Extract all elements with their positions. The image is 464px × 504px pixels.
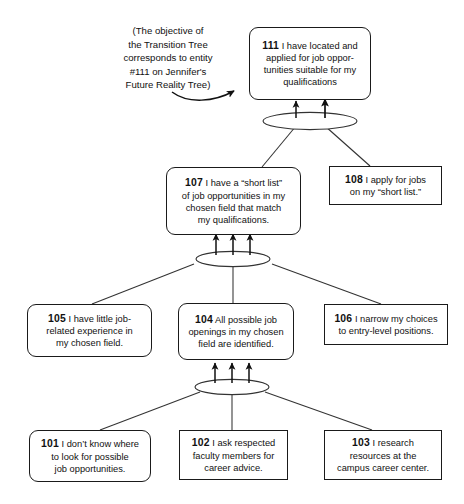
- annotation-curved-arrow: [172, 91, 234, 100]
- node-101[interactable]: 101 I don’t know where to look for possi…: [29, 430, 151, 482]
- node-105-line-2: related experience in: [46, 326, 132, 336]
- node-111[interactable]: 111 I have located and applied for job o…: [249, 27, 371, 100]
- and-connector-bottom-ellipse: [195, 379, 269, 394]
- node-111-text: 111 I have located and applied for job o…: [262, 39, 357, 89]
- node-105[interactable]: 105 I have little job- related experienc…: [27, 304, 152, 357]
- node-105-line-3: my chosen field.: [56, 338, 123, 348]
- edges-to-top-connector: [262, 126, 370, 167]
- transition-tree-diagram: (The objective of the Transition Tree co…: [0, 0, 464, 504]
- node-105-text: 105 I have little job- related experienc…: [46, 312, 132, 350]
- arrows-bottom-connector-to-104: [215, 363, 249, 383]
- node-106-id: 106: [334, 313, 352, 324]
- node-102-line-1: I ask respected: [212, 438, 275, 448]
- arrows-top-connector-to-111: [296, 99, 325, 118]
- node-102-line-3: career advice.: [204, 463, 262, 473]
- node-106[interactable]: 106 I narrow my choices to entry-level p…: [324, 304, 448, 345]
- node-104-id: 104: [195, 314, 213, 325]
- diagram-edges: [0, 0, 464, 504]
- node-108[interactable]: 108 I apply for jobs on my “short list.”: [329, 166, 442, 205]
- node-108-line-1: I apply for jobs: [366, 175, 426, 185]
- annotation-line-5: Future Reality Tree): [126, 79, 211, 90]
- node-111-line-2: applied for job oppor-: [266, 53, 354, 63]
- node-107-line-4: my qualifications.: [198, 215, 269, 225]
- node-111-id: 111: [262, 40, 279, 51]
- node-103-id: 103: [352, 437, 370, 448]
- node-104-line-2: openings in my chosen: [188, 327, 283, 337]
- node-108-line-2: on my “short list.”: [350, 187, 421, 197]
- node-104[interactable]: 104 All possible job openings in my chos…: [178, 303, 294, 360]
- node-102-id: 102: [192, 437, 210, 448]
- node-101-id: 101: [41, 438, 59, 449]
- node-103-text: 103 I research resources at the campus c…: [337, 436, 429, 474]
- node-107-id: 107: [185, 177, 203, 188]
- node-102-line-2: faculty members for: [193, 451, 275, 461]
- and-connector-middle-ellipse: [196, 251, 270, 266]
- edges-to-middle-connector: [92, 264, 381, 304]
- node-108-id: 108: [345, 174, 363, 185]
- node-104-line-1: All possible job: [215, 315, 277, 325]
- node-102[interactable]: 102 I ask respected faculty members for …: [179, 430, 288, 480]
- node-104-text: 104 All possible job openings in my chos…: [188, 313, 283, 351]
- node-101-text: 101 I don’t know where to look for possi…: [41, 437, 139, 475]
- node-103[interactable]: 103 I research resources at the campus c…: [324, 430, 442, 480]
- edges-to-bottom-connector: [100, 392, 372, 430]
- node-103-line-2: resources at the: [350, 451, 417, 461]
- node-106-text: 106 I narrow my choices to entry-level p…: [334, 312, 437, 338]
- node-101-line-3: job opportunities.: [55, 464, 126, 474]
- node-107-line-3: chosen field that match: [186, 203, 282, 213]
- node-107[interactable]: 107 I have a “short list” of job opportu…: [166, 167, 301, 235]
- node-111-line-3: tunities suitable for my: [264, 65, 357, 75]
- node-111-line-1: I have located and: [282, 41, 358, 51]
- node-105-id: 105: [48, 313, 66, 324]
- node-105-line-1: I have little job-: [69, 314, 132, 324]
- annotation-line-3: corresponds to entity: [123, 52, 212, 63]
- and-connector-top-ellipse: [263, 112, 357, 129]
- node-101-line-2: to look for possible: [51, 452, 129, 462]
- node-103-line-3: campus career center.: [337, 463, 429, 473]
- node-106-line-1: I narrow my choices: [355, 314, 438, 324]
- node-106-line-2: to entry-level positions.: [338, 326, 433, 336]
- node-108-text: 108 I apply for jobs on my “short list.”: [345, 173, 426, 199]
- node-102-text: 102 I ask respected faculty members for …: [192, 436, 276, 474]
- annotation-line-4: #111 on Jennifer's: [130, 66, 207, 77]
- node-104-line-3: field are identified.: [198, 339, 273, 349]
- annotation-text: (The objective of the Transition Tree co…: [105, 24, 231, 92]
- node-111-line-4: qualifications: [283, 77, 337, 87]
- arrows-middle-connector-to-107: [216, 234, 250, 255]
- annotation-line-2: the Transition Tree: [128, 39, 207, 50]
- node-107-line-1: I have a “short list”: [206, 178, 282, 188]
- annotation-line-1: (The objective of: [133, 25, 204, 36]
- node-107-line-2: of job opportunities in my: [182, 191, 285, 201]
- node-107-text: 107 I have a “short list” of job opportu…: [182, 176, 285, 226]
- node-103-line-1: I research: [373, 438, 414, 448]
- node-101-line-1: I don’t know where: [62, 439, 140, 449]
